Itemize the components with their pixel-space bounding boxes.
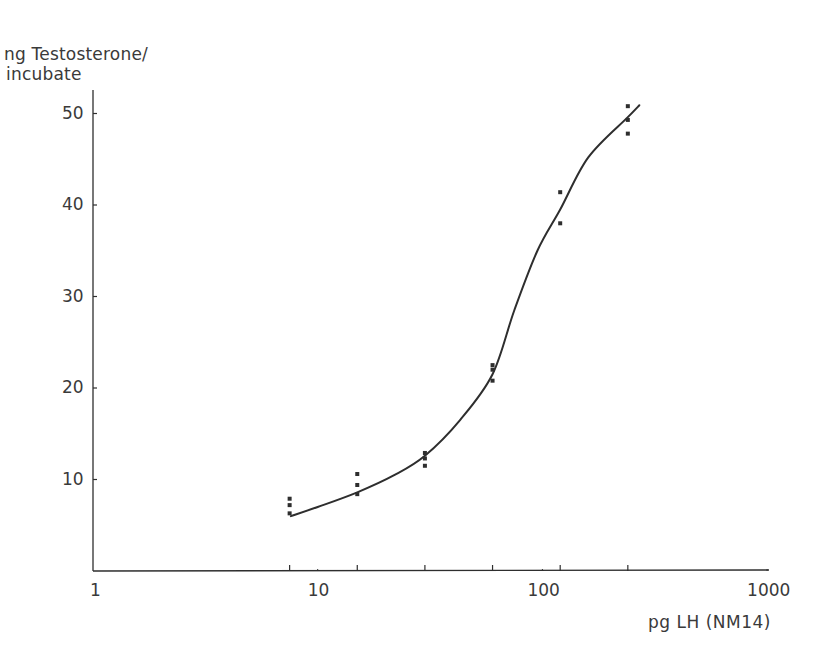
data-point [288, 511, 292, 515]
data-point [626, 132, 630, 136]
x-axis-line [93, 570, 769, 571]
data-points [288, 104, 630, 515]
data-point [423, 456, 427, 460]
axes [93, 90, 769, 571]
chart-plot-area [0, 0, 824, 661]
data-point [491, 379, 495, 383]
data-point [355, 492, 359, 496]
data-point [626, 118, 630, 122]
fitted-curve-line [291, 105, 639, 516]
data-point [491, 363, 495, 367]
fitted-curve [291, 105, 639, 516]
data-point [423, 451, 427, 455]
data-point [626, 104, 630, 108]
data-point [558, 190, 562, 194]
data-point [355, 483, 359, 487]
data-point [355, 472, 359, 476]
data-point [423, 464, 427, 468]
data-point [558, 221, 562, 225]
data-point [288, 503, 292, 507]
data-point [491, 368, 495, 372]
data-point [288, 497, 292, 501]
